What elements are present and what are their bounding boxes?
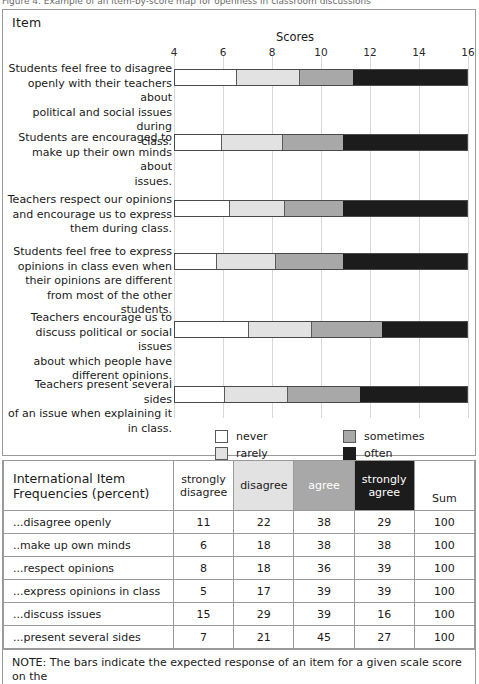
table-row-label: ...express opinions in class (4, 580, 174, 603)
table-cell-strongly-disagree: 7 (174, 626, 234, 649)
table-row-label: ...disagree openly (4, 511, 174, 534)
table-cell-sum: 100 (414, 511, 474, 534)
figure-note: NOTE: The bars indicate the expected res… (2, 650, 476, 684)
table-row: ..make up own minds6183838100 (4, 534, 475, 557)
table-col-header-line2: agree (355, 486, 414, 499)
table-cell-agree: 38 (294, 511, 354, 534)
table-col-header-line2: disagree (174, 486, 233, 499)
frequencies-table: International Item Frequencies (percent)… (3, 460, 475, 649)
bar-row-label: Teachers encourage us todiscuss politica… (7, 311, 172, 384)
legend-item-never[interactable]: never (215, 430, 268, 443)
gridline-16 (468, 56, 469, 418)
table-col-header-strongly-agree: stronglyagree (354, 461, 414, 511)
table-cell-agree: 38 (294, 534, 354, 557)
bar-segment-rarely (216, 254, 274, 269)
table-cell-strongly-agree: 38 (354, 534, 414, 557)
table-cell-agree: 39 (294, 580, 354, 603)
table-row: ...present several sides7214527100 (4, 626, 475, 649)
table-row: ...disagree openly11223829100 (4, 511, 475, 534)
gridline-10 (321, 56, 322, 418)
bar-row-label-line: openly with their teachers about (7, 77, 172, 106)
bar-row-label-line: opinions in class even when (7, 260, 172, 275)
table-cell-strongly-agree: 39 (354, 557, 414, 580)
bar-row-label-line: and encourage us to express (7, 208, 172, 223)
bar-segment-often (360, 387, 467, 402)
legend-label-often: often (364, 447, 392, 460)
legend-swatch-never (215, 430, 228, 443)
gridline-12 (370, 56, 371, 418)
table-cell-disagree: 18 (234, 534, 294, 557)
table-cell-strongly-agree: 29 (354, 511, 414, 534)
table-col-header-line1: agree (294, 479, 353, 492)
table-cell-strongly-disagree: 15 (174, 603, 234, 626)
bar-segment-sometimes (287, 387, 360, 402)
table-cell-disagree: 17 (234, 580, 294, 603)
chart-legend: neverrarelysometimesoften (215, 430, 455, 464)
table-head: International Item Frequencies (percent)… (4, 461, 475, 511)
bar-row-label-line: issues. (7, 175, 172, 190)
scores-axis-title: Scores (3, 30, 477, 44)
table-row-label: ...present several sides (4, 626, 174, 649)
gridlines (174, 56, 468, 418)
table-row-label: ...respect opinions (4, 557, 174, 580)
bar-row-label: Teachers respect our opinionsand encoura… (7, 193, 172, 237)
bar-segment-sometimes (275, 254, 343, 269)
table-cell-disagree: 22 (234, 511, 294, 534)
figure-caption-text: Figure 4. Example of an item-by-score ma… (0, 0, 479, 7)
bar-row-label-line: of an issue when explaining it (7, 407, 172, 422)
table-col-header-disagree: disagree (234, 461, 294, 511)
stacked-bar (174, 386, 468, 403)
bar-row-label: Teachers present several sidesof an issu… (7, 378, 172, 436)
legend-swatch-often (343, 447, 356, 460)
table-row: ...express opinions in class5173939100 (4, 580, 475, 603)
bar-segment-often (343, 135, 467, 150)
figure-note-text: NOTE: The bars indicate the expected res… (12, 656, 462, 683)
table-cell-sum: 100 (414, 603, 474, 626)
table-cell-disagree: 18 (234, 557, 294, 580)
stacked-bar (174, 253, 468, 270)
bar-row-label-line: their opinions are different (7, 274, 172, 289)
figure-caption-clipped: Figure 4. Example of an item-by-score ma… (0, 0, 479, 9)
bar-row-label-line: them during class. (7, 222, 172, 237)
table-col-header-line1: disagree (234, 479, 293, 492)
table-cell-strongly-agree: 39 (354, 580, 414, 603)
legend-item-sometimes[interactable]: sometimes (343, 430, 425, 443)
legend-item-often[interactable]: often (343, 447, 392, 460)
table-body: ...disagree openly11223829100..make up o… (4, 511, 475, 649)
stacked-bar (174, 321, 468, 338)
table-col-header-agree: agree (294, 461, 354, 511)
gridline-4 (174, 56, 175, 418)
legend-item-rarely[interactable]: rarely (215, 447, 268, 460)
bar-segment-sometimes (282, 135, 343, 150)
table-cell-agree: 39 (294, 603, 354, 626)
table-cell-agree: 36 (294, 557, 354, 580)
stacked-bar (174, 200, 468, 217)
bar-row-label-line: Students are encouraged to (7, 131, 172, 146)
table-col-header-line1: strongly (174, 473, 233, 486)
gridline-8 (272, 56, 273, 418)
plot-area: 46810121416 (174, 46, 468, 428)
legend-label-rarely: rarely (236, 447, 268, 460)
table-cell-strongly-disagree: 11 (174, 511, 234, 534)
bar-segment-never (175, 70, 236, 85)
table-row-label: ...discuss issues (4, 603, 174, 626)
bar-row-label-line: Teachers present several sides (7, 378, 172, 407)
table-cell-sum: 100 (414, 626, 474, 649)
bar-row-label-line: in class. (7, 422, 172, 437)
bar-segment-rarely (248, 322, 311, 337)
table-col-header-sum: Sum (414, 461, 474, 511)
bar-segment-never (175, 387, 224, 402)
table-title-line1: International Item (13, 471, 173, 486)
bar-segment-never (175, 322, 248, 337)
bar-segment-sometimes (299, 70, 353, 85)
table-row-label: ..make up own minds (4, 534, 174, 557)
bar-segment-rarely (224, 387, 287, 402)
item-column-header: Item (12, 15, 41, 30)
table-cell-agree: 45 (294, 626, 354, 649)
table-cell-strongly-disagree: 8 (174, 557, 234, 580)
table-cell-sum: 100 (414, 557, 474, 580)
bar-segment-rarely (229, 201, 285, 216)
bar-row-label-line: Teachers encourage us to (7, 311, 172, 326)
table-cell-strongly-agree: 27 (354, 626, 414, 649)
table-col-header-line1: Sum (415, 492, 474, 505)
